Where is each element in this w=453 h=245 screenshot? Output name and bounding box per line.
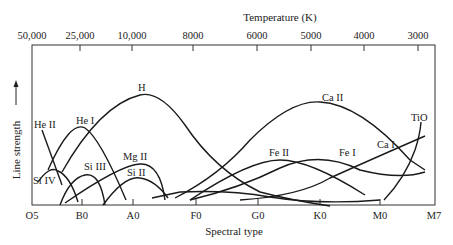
top-tick-label: 10,000 <box>118 30 147 41</box>
bottom-tick-label: B0 <box>76 210 88 221</box>
bottom-tick-label: M0 <box>373 210 388 221</box>
bottom-tick-label: M7 <box>427 210 442 221</box>
top-tick-label: 6000 <box>247 30 268 41</box>
top-tick-label: 8000 <box>183 30 204 41</box>
label-fe2: Fe II <box>269 147 290 158</box>
curves <box>38 94 425 206</box>
top-tick-label: 50,000 <box>18 30 47 41</box>
curve-si2 <box>103 178 168 205</box>
y-axis-title: Line strength <box>10 120 22 179</box>
arrow-head-icon <box>14 80 19 87</box>
top-axis-ticks: 50,000 25,000 10,000 8000 6000 5000 4000… <box>18 30 429 51</box>
bottom-tick-label: K0 <box>314 210 327 221</box>
label-ca1: Ca I <box>377 139 395 150</box>
label-si4: Si IV <box>33 175 56 186</box>
spectral-line-strength-chart: Temperature (K) 50,000 25,000 10,000 800… <box>0 0 453 245</box>
top-tick-label: 5000 <box>301 30 322 41</box>
label-si3: Si III <box>84 161 106 172</box>
label-mg2: Mg II <box>123 151 148 162</box>
y-axis-title-group: Line strength <box>10 80 22 179</box>
bottom-tick-label: G0 <box>252 210 265 221</box>
curve-mg2 <box>65 164 165 203</box>
bottom-tick-label: A0 <box>127 210 140 221</box>
bottom-axis-ticks: O5 B0 A0 F0 G0 K0 M0 M7 <box>26 199 442 221</box>
curve-fe2 <box>190 160 365 200</box>
top-axis-title: Temperature (K) <box>243 11 317 24</box>
bottom-axis-title: Spectral type <box>205 225 263 237</box>
label-ca2: Ca II <box>322 92 344 103</box>
curve-tio <box>384 122 421 200</box>
label-he2: He II <box>34 119 56 130</box>
label-he1: He I <box>76 115 95 126</box>
label-tio: TiO <box>411 112 428 123</box>
label-fe1: Fe I <box>339 147 356 158</box>
bottom-tick-label: F0 <box>190 210 201 221</box>
top-tick-label: 3000 <box>408 30 429 41</box>
label-si2: Si II <box>127 167 146 178</box>
bottom-tick-label: O5 <box>26 210 39 221</box>
top-tick-label: 25,000 <box>66 30 95 41</box>
top-tick-label: 4000 <box>354 30 375 41</box>
label-h: H <box>138 82 146 93</box>
